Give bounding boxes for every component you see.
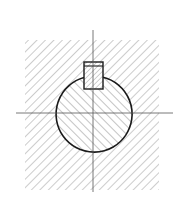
shaft-key-cross-section-drawing bbox=[0, 0, 188, 203]
figure-caption bbox=[14, 195, 174, 201]
